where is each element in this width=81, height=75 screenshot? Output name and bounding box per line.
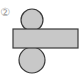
lateral-rectangle <box>13 29 78 48</box>
top-circle <box>21 9 43 31</box>
bottom-circle <box>19 47 45 73</box>
cylinder-net-diagram <box>0 0 81 75</box>
